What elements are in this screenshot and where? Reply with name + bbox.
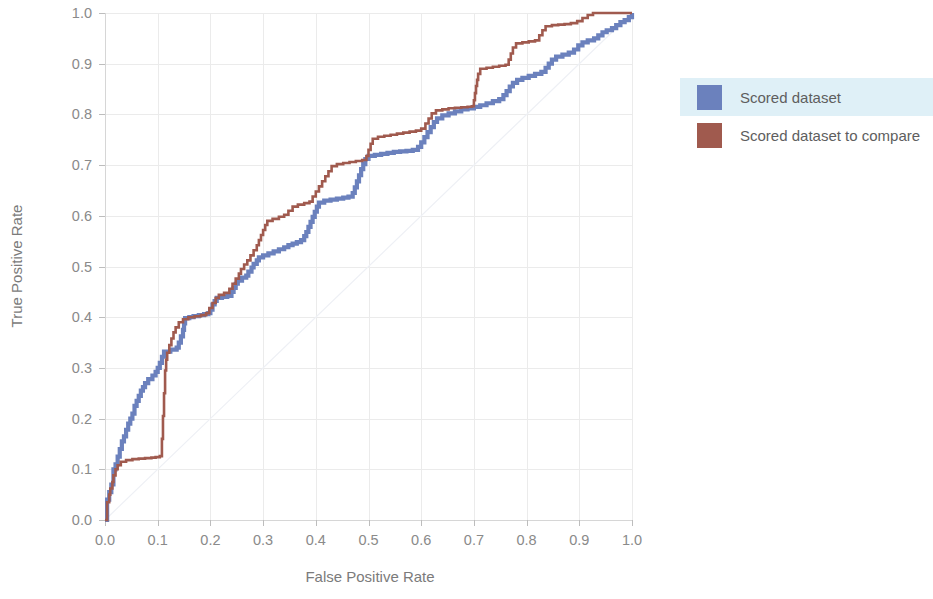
y-tick-label: 1.0 bbox=[72, 5, 92, 21]
legend-item-label: Scored dataset to compare bbox=[740, 127, 920, 144]
roc-curve-chart: 0.00.10.20.30.40.50.60.70.80.91.0 0.00.1… bbox=[0, 0, 933, 599]
y-tick-label: 0.7 bbox=[72, 157, 92, 173]
x-tick-label: 0.1 bbox=[148, 532, 168, 548]
y-tick-label: 0.0 bbox=[72, 512, 92, 528]
x-tick-label: 0.7 bbox=[464, 532, 484, 548]
y-axis-title: True Positive Rate bbox=[8, 205, 25, 328]
legend-item[interactable]: Scored dataset to compare bbox=[680, 116, 933, 154]
x-tick-label: 0.2 bbox=[200, 532, 220, 548]
x-tick-label: 0.0 bbox=[95, 532, 115, 548]
legend-item[interactable]: Scored dataset bbox=[680, 78, 933, 116]
legend-item-label: Scored dataset bbox=[740, 89, 841, 106]
x-tick-label: 0.4 bbox=[306, 532, 326, 548]
x-tick-label: 1.0 bbox=[622, 532, 642, 548]
x-axis-title: False Positive Rate bbox=[305, 568, 434, 585]
plot-area: 0.00.10.20.30.40.50.60.70.80.91.0 0.00.1… bbox=[0, 0, 670, 599]
y-tick-label: 0.5 bbox=[72, 259, 92, 275]
x-tick-label: 0.6 bbox=[411, 532, 431, 548]
y-tick-label: 0.6 bbox=[72, 208, 92, 224]
y-axis-tick-labels: 0.00.10.20.30.40.50.60.70.80.91.0 bbox=[72, 5, 92, 528]
legend-color-swatch bbox=[697, 123, 722, 148]
y-tick-label: 0.1 bbox=[72, 461, 92, 477]
x-tick-label: 0.9 bbox=[569, 532, 589, 548]
x-tick-label: 0.8 bbox=[517, 532, 537, 548]
x-axis-tick-labels: 0.00.10.20.30.40.50.60.70.80.91.0 bbox=[95, 532, 642, 548]
y-tick-label: 0.9 bbox=[72, 56, 92, 72]
y-tick-label: 0.3 bbox=[72, 360, 92, 376]
legend-color-swatch bbox=[697, 85, 722, 110]
y-tick-label: 0.8 bbox=[72, 106, 92, 122]
chart-legend: Scored datasetScored dataset to compare bbox=[680, 78, 933, 154]
y-tick-label: 0.2 bbox=[72, 411, 92, 427]
x-tick-label: 0.5 bbox=[358, 532, 378, 548]
reference-line bbox=[105, 13, 632, 520]
y-tick-label: 0.4 bbox=[72, 309, 92, 325]
x-tick-label: 0.3 bbox=[253, 532, 273, 548]
plot-svg: 0.00.10.20.30.40.50.60.70.80.91.0 0.00.1… bbox=[0, 0, 670, 599]
